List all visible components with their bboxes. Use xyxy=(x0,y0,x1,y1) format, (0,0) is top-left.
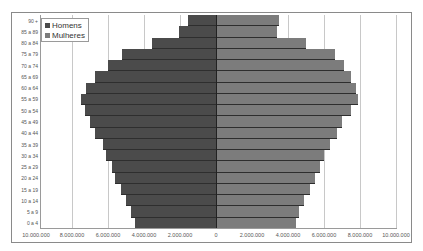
y-tick-label: 65 a 69 xyxy=(12,74,38,80)
y-tick-label: 80 a 84 xyxy=(12,40,38,46)
y-tick-label: 35 a 39 xyxy=(12,142,38,148)
x-tick-label: 6.000.000 xyxy=(96,232,120,238)
legend-swatch-homens-icon xyxy=(45,23,50,28)
y-tick-label: 30 a 34 xyxy=(12,153,38,159)
y-tick-label: 25 a 29 xyxy=(12,164,38,170)
y-tick-label: 20 a 24 xyxy=(12,175,38,181)
y-tick-label: 75 a 79 xyxy=(12,51,38,57)
x-tick-label: 4.000.000 xyxy=(132,232,156,238)
legend-label-mulheres: Mulheres xyxy=(52,31,85,40)
x-tick-label: 10.000.000 xyxy=(22,232,50,238)
plot-area xyxy=(40,15,397,229)
y-tick-label: 45 a 49 xyxy=(12,119,38,125)
y-tick-label: 0 a 4 xyxy=(12,220,38,226)
x-tick-label: 8.000.000 xyxy=(348,232,372,238)
y-tick-label: 60 a 64 xyxy=(12,85,38,91)
y-tick-label: 55 a 59 xyxy=(12,96,38,102)
y-tick-label: 5 a 9 xyxy=(12,209,38,215)
y-tick-label: 50 a 54 xyxy=(12,108,38,114)
y-tick-label: 85 a 89 xyxy=(12,29,38,35)
x-tick-label: 8.000.000 xyxy=(60,232,84,238)
y-tick-label: 10 a 14 xyxy=(12,198,38,204)
legend-item-homens: Homens xyxy=(45,21,82,30)
y-tick-label: 70 a 74 xyxy=(12,63,38,69)
x-tick-label: 2.000.000 xyxy=(240,232,264,238)
legend: Homens Mulheres xyxy=(41,18,89,42)
x-tick-label: 10.000.000 xyxy=(382,232,410,238)
x-tick-label: 0 xyxy=(214,232,217,238)
y-tick-label: 15 a 19 xyxy=(12,187,38,193)
legend-label-homens: Homens xyxy=(52,21,82,30)
x-tick-label: 6.000.000 xyxy=(312,232,336,238)
x-tick-label: 4.000.000 xyxy=(276,232,300,238)
y-tick-label: 40 a 44 xyxy=(12,130,38,136)
legend-item-mulheres: Mulheres xyxy=(45,31,85,40)
y-tick-label: 90 + xyxy=(12,18,38,24)
legend-swatch-mulheres-icon xyxy=(45,33,50,38)
x-tick-label: 2.000.000 xyxy=(168,232,192,238)
